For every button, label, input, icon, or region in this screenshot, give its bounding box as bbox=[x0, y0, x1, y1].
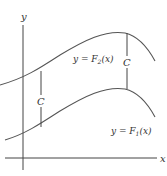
antiderivative-diagram: y x C C y = F2(x) y = F1(x) bbox=[0, 0, 167, 176]
gap-label-left: C bbox=[37, 96, 45, 107]
curve-f2-label: y = F2(x) bbox=[72, 54, 114, 65]
x-axis-label: x bbox=[160, 153, 166, 164]
gap-label-right: C bbox=[123, 57, 131, 68]
y-axis-label: y bbox=[20, 11, 27, 22]
curve-f1-label: y = F1(x) bbox=[110, 126, 152, 137]
